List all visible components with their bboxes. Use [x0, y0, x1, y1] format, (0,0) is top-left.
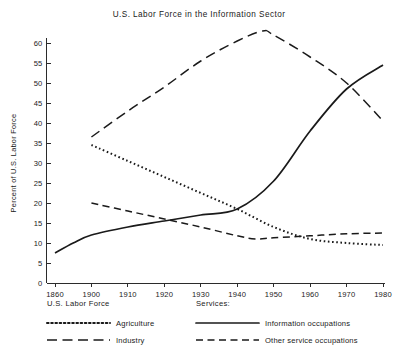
x-tick-label: 1970 — [338, 290, 356, 299]
y-tick-label: 10 — [34, 239, 43, 248]
y-axis: 051015202530354045505560 — [34, 38, 51, 288]
x-tick-label: 1910 — [119, 290, 137, 299]
x-tick-label: 1900 — [83, 290, 101, 299]
legend-heading-labor-force: U.S. Labor Force — [47, 299, 110, 308]
legend-label-agriculture: Agriculture — [116, 319, 155, 328]
series-line-industry — [91, 31, 383, 137]
y-tick-label: 60 — [34, 39, 43, 48]
x-tick-label: 1980 — [374, 290, 392, 299]
line-chart: U.S. Labor Force in the Information Sect… — [0, 0, 398, 356]
x-tick-label: 1960 — [301, 290, 319, 299]
x-tick-label: 1920 — [155, 290, 173, 299]
y-tick-label: 35 — [34, 139, 43, 148]
series-line-information-occupations — [55, 65, 383, 253]
series-line-agriculture — [91, 145, 383, 245]
x-tick-label: 1860 — [46, 290, 64, 299]
x-axis: 1860190019101920193019401950196019701980 — [46, 283, 392, 299]
y-axis-title: Percent of U.S. Labor Force — [9, 114, 18, 213]
y-tick-label: 40 — [34, 119, 43, 128]
y-tick-label: 30 — [34, 159, 43, 168]
x-tick-label: 1930 — [192, 290, 210, 299]
chart-title: U.S. Labor Force in the Information Sect… — [113, 10, 286, 19]
y-tick-label: 20 — [34, 199, 43, 208]
x-tick-label: 1950 — [265, 290, 283, 299]
legend-label-other-service-occupations: Other service occupations — [265, 336, 358, 345]
y-tick-label: 50 — [34, 79, 43, 88]
legend-label-information-occupations: Information occupations — [265, 319, 350, 328]
chart-figure: U.S. Labor Force in the Information Sect… — [0, 0, 398, 356]
y-tick-label: 0 — [38, 279, 42, 288]
chart-legend: AgricultureIndustryInformation occupatio… — [47, 319, 358, 345]
legend-label-industry: Industry — [116, 336, 145, 345]
x-tick-label: 1940 — [228, 290, 246, 299]
y-tick-label: 55 — [34, 59, 43, 68]
y-tick-label: 45 — [34, 99, 43, 108]
y-tick-label: 15 — [34, 219, 43, 228]
legend-heading-services: Services: — [196, 299, 230, 308]
y-tick-label: 25 — [34, 179, 43, 188]
y-tick-label: 5 — [38, 259, 42, 268]
series-layer — [55, 31, 383, 253]
